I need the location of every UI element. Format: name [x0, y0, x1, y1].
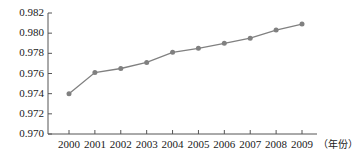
x-axis-tick-label: 2007 [239, 139, 261, 150]
x-axis-tick-label: 2009 [291, 139, 313, 150]
x-axis-tick-label: 2006 [213, 139, 235, 150]
x-axis-tick-label: 2003 [136, 139, 158, 150]
x-axis-tick-label: 2002 [110, 139, 132, 150]
x-axis-tick-label: 2000 [58, 139, 80, 150]
x-axis-tick-label: 2008 [265, 139, 287, 150]
x-axis-title: （年份） [318, 139, 356, 150]
x-axis-tick-label: 2001 [84, 139, 106, 150]
x-axis-tick-label: 2004 [162, 139, 184, 150]
x-axis-tick-label: 2005 [187, 139, 209, 150]
